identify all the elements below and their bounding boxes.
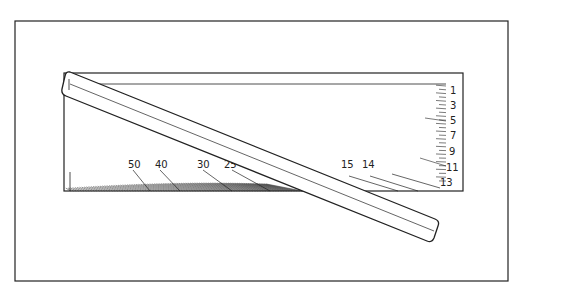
right-scale-label: 3 — [450, 100, 456, 111]
bottom-scale-label: 15 — [341, 159, 354, 170]
bottom-scale-label: 14 — [362, 159, 375, 170]
scale-diagram: 135791113 50403025201514 — [0, 0, 581, 295]
right-scale-label: 13 — [440, 177, 453, 188]
bottom-scale-label: 50 — [128, 159, 141, 170]
right-scale-label: 7 — [450, 130, 456, 141]
right-scale-label: 9 — [449, 146, 455, 157]
bottom-scale-label: 30 — [197, 159, 210, 170]
diagram-stage: 135791113 50403025201514 — [0, 0, 581, 295]
bottom-scale-label: 40 — [155, 159, 168, 170]
right-scale-label: 1 — [450, 85, 456, 96]
right-scale-label: 11 — [446, 162, 459, 173]
right-scale-label: 5 — [450, 115, 456, 126]
